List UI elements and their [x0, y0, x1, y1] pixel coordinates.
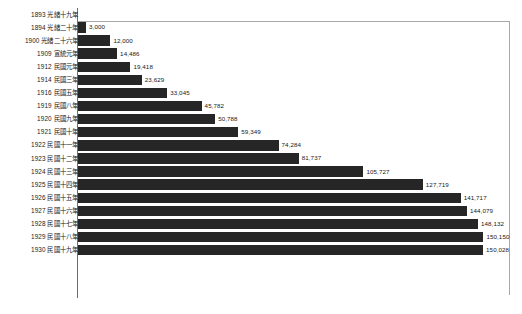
category-label: 1927 民國十六年 [0, 207, 78, 215]
bar [78, 232, 483, 242]
bar-row: 1914 民國三年23,629 [0, 73, 522, 86]
category-label: 1914 民國三年 [0, 76, 78, 84]
bar-container: 105,727 [78, 166, 390, 176]
bar [78, 179, 423, 189]
bar-value-label: 19,418 [133, 63, 153, 71]
bar-container: 144,079 [78, 206, 493, 216]
bar-value-label: 81,737 [302, 154, 322, 162]
bar-container: 23,629 [78, 75, 164, 85]
bar-row: 1926 民國十五年141,717 [0, 191, 522, 204]
bar [78, 245, 483, 255]
category-label: 1909 宣統元年 [0, 50, 78, 58]
axis-tick [74, 106, 77, 107]
category-label: 1920 民國九年 [0, 115, 78, 123]
bar-container: 3,000 [78, 22, 105, 32]
axis-tick [74, 145, 77, 146]
bar-row: 1912 民國元年19,418 [0, 60, 522, 73]
bar [78, 140, 279, 150]
axis-tick [74, 119, 77, 120]
axis-tick [74, 80, 77, 81]
bar-container: 50,788 [78, 114, 238, 124]
bar [78, 153, 299, 163]
axis-tick [74, 54, 77, 55]
bar-row: 1894 光緒二十年3,000 [0, 21, 522, 34]
bar-container: 148,132 [78, 219, 504, 229]
bar-row: 1930 民國十九年150,028 [0, 244, 522, 257]
bar [78, 48, 117, 58]
bar [78, 127, 238, 137]
category-label: 1919 民國八年 [0, 102, 78, 110]
bar-container: 19,418 [78, 62, 153, 72]
bar-value-label: 50,788 [218, 115, 238, 123]
bar-row: 1921 民國十年59,349 [0, 126, 522, 139]
axis-tick [74, 93, 77, 94]
bar-container: 33,045 [78, 88, 190, 98]
bar-value-label: 127,719 [426, 181, 449, 189]
bar-container: 81,737 [78, 153, 321, 163]
category-label: 1930 民國十九年 [0, 246, 78, 254]
bar-value-label: 150,150 [486, 233, 509, 241]
bar-chart: 1893 光緒十九年1894 光緒二十年3,0001900 光緒二十六年12,0… [0, 0, 522, 314]
category-label: 1893 光緒十九年 [0, 11, 78, 19]
bar [78, 206, 467, 216]
bar [78, 193, 461, 203]
bar-container: 14,486 [78, 48, 140, 58]
bar [78, 62, 130, 72]
category-label: 1912 民國元年 [0, 63, 78, 71]
bar [78, 88, 167, 98]
category-label: 1926 民國十五年 [0, 194, 78, 202]
axis-tick [74, 185, 77, 186]
bar-value-label: 59,349 [241, 128, 261, 136]
axis-tick [74, 237, 77, 238]
axis-tick [74, 41, 77, 42]
category-label: 1929 民國十八年 [0, 233, 78, 241]
bar-rows: 1893 光緒十九年1894 光緒二十年3,0001900 光緒二十六年12,0… [0, 8, 522, 257]
bar-value-label: 12,000 [113, 37, 133, 45]
bar-container: 127,719 [78, 179, 449, 189]
bar-row: 1928 民國十七年148,132 [0, 218, 522, 231]
bar [78, 101, 202, 111]
bar-value-label: 150,028 [486, 246, 509, 254]
bar-container: 150,028 [78, 245, 509, 255]
bar-container: 74,284 [78, 140, 301, 150]
bar-value-label: 74,284 [282, 141, 302, 149]
bar [78, 75, 142, 85]
axis-tick [74, 28, 77, 29]
axis-tick [74, 211, 77, 212]
bar-value-label: 14,486 [120, 50, 140, 58]
category-label: 1922 民國十一年 [0, 141, 78, 149]
bar-row: 1925 民國十四年127,719 [0, 178, 522, 191]
bar-row: 1916 民國五年33,045 [0, 87, 522, 100]
bar-row: 1920 民國九年50,788 [0, 113, 522, 126]
bar-value-label: 45,782 [205, 102, 225, 110]
bar-value-label: 105,727 [366, 168, 389, 176]
bar-container: 59,349 [78, 127, 261, 137]
bar-value-label: 148,132 [481, 220, 504, 228]
axis-tick [74, 15, 77, 16]
bar-container: 45,782 [78, 101, 224, 111]
bar-container: 12,000 [78, 35, 133, 45]
bar-value-label: 33,045 [170, 89, 190, 97]
category-label: 1928 民國十七年 [0, 220, 78, 228]
bar-row: 1909 宣統元年14,486 [0, 47, 522, 60]
bar-row: 1924 民國十三年105,727 [0, 165, 522, 178]
category-label: 1916 民國五年 [0, 89, 78, 97]
bar [78, 166, 363, 176]
bar-row: 1923 民國十二年81,737 [0, 152, 522, 165]
axis-tick [74, 224, 77, 225]
category-label: 1925 民國十四年 [0, 181, 78, 189]
category-label: 1923 民國十二年 [0, 155, 78, 163]
bar [78, 35, 110, 45]
bar [78, 219, 478, 229]
bar-value-label: 23,629 [145, 76, 165, 84]
bar-container: 150,150 [78, 232, 509, 242]
bar-row: 1927 民國十六年144,079 [0, 204, 522, 217]
bar-row: 1893 光緒十九年 [0, 8, 522, 21]
axis-tick [74, 172, 77, 173]
bar-row: 1922 民國十一年74,284 [0, 139, 522, 152]
bar-container: 141,717 [78, 193, 487, 203]
bar [78, 114, 215, 124]
axis-tick [74, 132, 77, 133]
bar-row: 1919 民國八年45,782 [0, 100, 522, 113]
bar-value-label: 3,000 [89, 23, 105, 31]
